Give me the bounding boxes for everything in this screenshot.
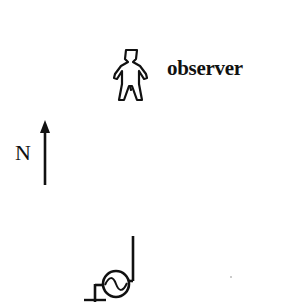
person-icon [114,50,147,100]
north-label: N [15,140,31,166]
diagram-canvas: observer N [0,0,282,302]
observer-label: observer [167,56,243,81]
diagram-drawing [0,0,282,302]
ac-generator-icon [95,236,133,302]
north-arrow-icon [40,120,50,185]
